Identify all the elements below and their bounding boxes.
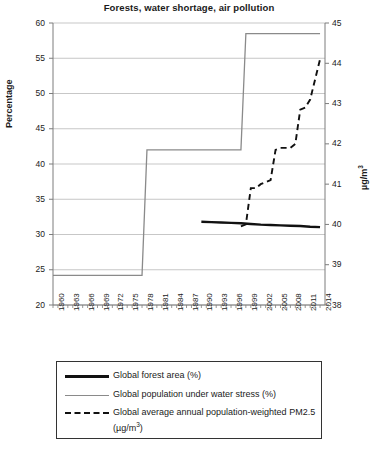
legend-item-forest-area[interactable]: Global forest area (%): [65, 370, 201, 382]
x-axis-tick-label: 1966: [87, 293, 96, 311]
y-axis-right-tick-label: 38: [332, 300, 358, 310]
legend-label-pm25-tail: ): [140, 423, 143, 433]
gridlines-group: [53, 23, 325, 305]
legend-item-water-stress[interactable]: Global population under water stress (%): [65, 389, 276, 401]
y-axis-left-tick-label: 60: [19, 18, 45, 28]
x-axis-tick-label: 1978: [146, 293, 155, 311]
left-tick-marks-group: [49, 23, 53, 305]
chart-figure: Forests, water shortage, air pollution P…: [0, 0, 378, 449]
x-axis-tick-label: 1981: [161, 293, 170, 311]
y-axis-left-tick-label: 30: [19, 229, 45, 239]
y-axis-left-tick-label: 55: [19, 53, 45, 63]
x-axis-tick-label: 1972: [116, 293, 125, 311]
y-axis-left-tick-label: 25: [19, 264, 45, 274]
legend-label-pm25: Global average annual population-weighte…: [113, 407, 318, 434]
y-axis-right-tick-label: 45: [332, 18, 358, 28]
legend-swatch-dashed: [65, 407, 109, 419]
legend-swatch-solid-thick: [65, 370, 109, 382]
x-axis-tick-label: 1969: [102, 293, 111, 311]
y-axis-left-tick-label: 50: [19, 88, 45, 98]
data-series-group: [53, 34, 320, 276]
x-axis-tick-label: 1996: [235, 293, 244, 311]
y-axis-left-tick-label: 40: [19, 159, 45, 169]
x-axis-tick-label: 1984: [176, 293, 185, 311]
x-axis-tick-label: 2008: [294, 293, 303, 311]
series-line-1: [53, 34, 320, 276]
y-axis-right-tick-label: 41: [332, 179, 358, 189]
y-axis-right-tick-label: 39: [332, 259, 358, 269]
y-axis-right-tick-label: 40: [332, 219, 358, 229]
legend-item-pm25[interactable]: Global average annual population-weighte…: [65, 407, 318, 434]
y-axis-right-tick-label: 44: [332, 58, 358, 68]
legend-label-pm25-main: Global average annual population-weighte…: [113, 407, 315, 433]
y-axis-left-tick-label: 45: [19, 123, 45, 133]
series-line-0: [201, 222, 320, 227]
x-axis-tick-label: 1963: [72, 293, 81, 311]
y-axis-left-tick-label: 35: [19, 194, 45, 204]
legend-label-water-stress: Global population under water stress (%): [113, 389, 276, 400]
legend-label-forest-area: Global forest area (%): [113, 370, 201, 381]
x-axis-tick-label: 1975: [131, 293, 140, 311]
x-axis-tick-label: 1960: [57, 293, 66, 311]
y-axis-right-tick-label: 42: [332, 138, 358, 148]
x-axis-tick-label: 1987: [191, 293, 200, 311]
y-axis-right-tick-label: 43: [332, 98, 358, 108]
chart-legend: Global forest area (%) Global population…: [56, 361, 322, 439]
y-axis-left-tick-label: 20: [19, 300, 45, 310]
right-tick-marks-group: [325, 23, 329, 305]
x-axis-tick-label: 1993: [220, 293, 229, 311]
series-line-2: [241, 59, 320, 226]
x-axis-tick-label: 2005: [280, 293, 289, 311]
x-axis-tick-label: 2002: [265, 293, 274, 311]
x-axis-tick-label: 2014: [324, 293, 333, 311]
plot-area-wrapper: Percentage µg/m3 202530354045505560 3839…: [0, 0, 378, 350]
x-axis-tick-label: 2011: [309, 294, 318, 311]
legend-swatch-solid-thin: [65, 389, 109, 401]
x-axis-tick-label: 1990: [205, 293, 214, 311]
x-axis-tick-label: 1999: [250, 293, 259, 311]
